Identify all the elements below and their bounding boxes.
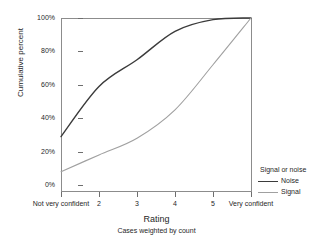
x-tick-mark xyxy=(251,192,252,197)
legend: Signal or noise NoiseSignal xyxy=(258,166,325,196)
legend-entry[interactable]: Signal xyxy=(258,188,325,196)
legend-entries: NoiseSignal xyxy=(258,177,325,196)
x-tick-label: Very confident xyxy=(229,200,273,208)
y-tick-mark xyxy=(78,85,83,86)
series-line-signal xyxy=(61,18,251,172)
legend-entry-label: Noise xyxy=(281,177,299,185)
x-tick-label: 2 xyxy=(97,200,101,208)
legend-line-swatch xyxy=(258,192,278,193)
x-axis-subtitle: Cases weighted by count xyxy=(61,227,252,235)
y-tick-mark xyxy=(78,18,83,19)
y-tick-label: 0% xyxy=(22,181,55,188)
y-tick-mark xyxy=(78,118,83,119)
y-tick-mark xyxy=(78,152,83,153)
plot-lines xyxy=(61,18,252,192)
y-tick-label: 40% xyxy=(22,114,55,121)
x-tick-mark xyxy=(99,192,100,197)
y-tick-mark xyxy=(78,51,83,52)
y-tick-label: 100% xyxy=(22,14,55,21)
x-tick-label: 4 xyxy=(173,200,177,208)
x-tick-mark xyxy=(213,192,214,197)
legend-entry[interactable]: Noise xyxy=(258,177,325,185)
x-axis-title: Rating xyxy=(61,214,252,224)
y-tick-mark xyxy=(78,185,83,186)
y-tick-label: 80% xyxy=(22,47,55,54)
x-tick-mark xyxy=(137,192,138,197)
legend-entry-label: Signal xyxy=(281,188,300,196)
legend-title: Signal or noise xyxy=(260,166,325,174)
y-axis-title: Cumulative percent xyxy=(16,0,25,133)
legend-line-swatch xyxy=(258,181,278,182)
x-tick-label: 5 xyxy=(211,200,215,208)
x-tick-mark xyxy=(175,192,176,197)
x-tick-label: Not very confident xyxy=(33,200,89,208)
y-tick-label: 60% xyxy=(22,81,55,88)
y-tick-label: 20% xyxy=(22,148,55,155)
x-tick-mark xyxy=(61,192,62,197)
cumulative-percent-chart: 0%20%40%60%80%100% Cumulative percent No… xyxy=(0,0,325,242)
series-line-noise xyxy=(61,18,251,137)
x-tick-label: 3 xyxy=(135,200,139,208)
